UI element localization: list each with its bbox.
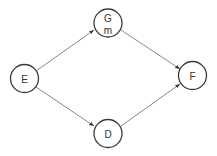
node-e[interactable]: E [11, 65, 39, 93]
node-g[interactable]: G m [94, 9, 122, 37]
node-g-sublabel: m [104, 25, 112, 36]
edge-e-to-d [36, 87, 94, 126]
edge-g-to-f [121, 30, 180, 69]
edge-d-to-f [121, 84, 180, 126]
node-f-label: F [189, 71, 195, 82]
node-d-label: D [104, 129, 111, 140]
node-d[interactable]: D [94, 120, 122, 148]
node-g-label: G [104, 13, 112, 24]
graph-canvas: E G m D F [0, 0, 217, 156]
edge-e-to-g [36, 30, 94, 71]
node-e-label: E [21, 74, 28, 85]
node-f[interactable]: F [179, 62, 207, 90]
